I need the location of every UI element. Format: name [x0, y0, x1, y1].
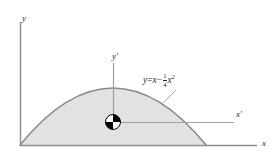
- equation-term2-exponent: 2: [172, 73, 175, 80]
- equation-minus: −: [157, 75, 162, 85]
- y-axis-label: y: [22, 14, 26, 23]
- figure-canvas: [0, 0, 274, 158]
- curve-equation-label: y=x−14x2: [143, 73, 175, 89]
- x-prime-axis-label: x′: [236, 110, 242, 119]
- fraction-numerator: 1: [163, 73, 167, 80]
- y-prime-axis-label: y′: [112, 52, 118, 61]
- centroid-marker: [106, 115, 121, 130]
- x-axis-label: x: [262, 139, 266, 148]
- equation-leader-line: [162, 90, 176, 104]
- fraction-denominator: 4: [163, 82, 167, 89]
- equation-fraction: 14: [163, 73, 167, 89]
